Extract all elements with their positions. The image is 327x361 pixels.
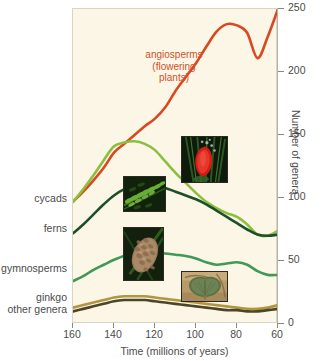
x-tick-label: 60 bbox=[262, 328, 292, 340]
y-tick-label: 100 bbox=[288, 190, 306, 202]
y-axis bbox=[277, 8, 278, 323]
series-line-ferns bbox=[73, 184, 278, 236]
series-label-other-genera: other genera bbox=[7, 303, 67, 315]
y-tick-mark bbox=[278, 134, 284, 135]
angiosperms-callout-line3: plants) bbox=[135, 72, 213, 84]
series-label-gymnosperms: gymnosperms bbox=[1, 262, 67, 274]
fern-photo bbox=[123, 176, 166, 212]
y-tick-label: 0 bbox=[288, 316, 294, 328]
y-tick-mark bbox=[278, 260, 284, 261]
y-tick-mark bbox=[278, 8, 284, 9]
y-tick-mark bbox=[278, 323, 284, 324]
flowering-plant-photo bbox=[181, 136, 228, 183]
ginkgo-leaf-photo bbox=[181, 271, 228, 302]
y-tick-label: 50 bbox=[288, 253, 300, 265]
y-tick-label: 200 bbox=[288, 64, 306, 76]
x-tick-label: 100 bbox=[180, 328, 210, 340]
x-tick-label: 160 bbox=[57, 328, 87, 340]
angiosperms-callout: angiosperms (flowering plants) bbox=[135, 49, 213, 84]
x-tick-label: 80 bbox=[221, 328, 251, 340]
angiosperms-callout-line1: angiosperms bbox=[135, 49, 213, 61]
series-label-ferns: ferns bbox=[44, 222, 67, 234]
series-line-gymnosperms bbox=[73, 253, 278, 281]
series-label-cycads: cycads bbox=[34, 192, 67, 204]
x-tick-label: 140 bbox=[98, 328, 128, 340]
y-tick-mark bbox=[278, 71, 284, 72]
y-axis-title: Number of genera bbox=[290, 110, 302, 195]
plot-area: angiosperms (flowering plants) bbox=[72, 8, 277, 323]
x-axis-title: Time (millions of years) bbox=[72, 345, 277, 357]
series-line-cycads bbox=[73, 141, 278, 236]
y-tick-mark bbox=[278, 197, 284, 198]
pine-cone-photo bbox=[123, 227, 164, 281]
angiosperms-callout-line2: (flowering bbox=[135, 61, 213, 73]
y-tick-label: 150 bbox=[288, 127, 306, 139]
x-tick-label: 120 bbox=[139, 328, 169, 340]
series-label-ginkgo: ginkgo bbox=[36, 291, 67, 303]
y-tick-label: 250 bbox=[288, 1, 306, 13]
chart-figure: angiosperms (flowering plants) cycads fe… bbox=[0, 0, 327, 361]
